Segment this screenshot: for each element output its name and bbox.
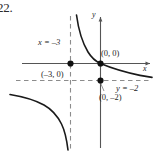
vertical-asymptote-label: x = –3 [38,38,60,47]
x-intercept-point-label: (–3, 0) [41,70,64,79]
point-x-intercept-marker [67,60,73,66]
y-intercept-point-label: (0, –2) [99,93,122,102]
point-y-intercept-marker [97,77,103,83]
curve-lower-left-branch [10,95,68,151]
y-axis-arrowhead [99,17,103,22]
x-axis [22,62,150,66]
function-graph-plot [0,0,154,155]
curve-upper-right-branch [77,15,153,77]
x-axis-label: x [143,65,147,73]
y-axis-label: y [92,11,96,19]
point-origin-marker [97,60,103,66]
origin-point-label: (0, 0) [101,49,119,58]
math-figure-panel: 22. x = –3 y = –2 (0, 0) (–3, 0) (0, –2) [0,0,154,155]
